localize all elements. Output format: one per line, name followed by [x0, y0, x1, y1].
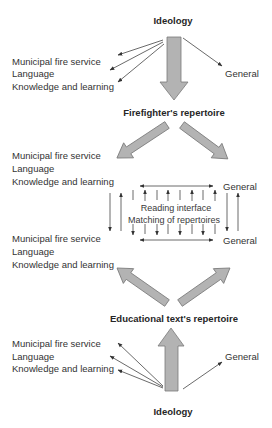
label-knowledge-and-learning: Knowledge and learning	[12, 363, 114, 374]
arrow-to-knowledge-icon	[118, 44, 164, 82]
label-municipal-fire-service: Municipal fire service	[12, 56, 101, 67]
repertoire-diagram: Ideology Municipal fire service Language…	[0, 0, 272, 428]
section-1-labels: Municipal fire service Language Knowledg…	[12, 56, 259, 92]
educational-repertoire-heading: Educational text's repertoire	[110, 313, 238, 324]
label-municipal-fire-service: Municipal fire service	[12, 233, 101, 244]
bottom-ideology-heading: Ideology	[153, 406, 193, 417]
arrow-to-general-icon	[183, 38, 222, 66]
label-municipal-fire-service: Municipal fire service	[12, 150, 101, 161]
matching-of-repertoires-label: Matching of repertoires	[128, 215, 221, 225]
educational-right-block-arrow	[175, 261, 235, 311]
label-general: General	[223, 235, 257, 246]
label-language: Language	[12, 246, 54, 257]
firefighter-repertoire-heading: Firefighter's repertoire	[123, 107, 225, 118]
arrow-to-municipal-icon	[118, 40, 163, 55]
ideology-down-block-arrow	[160, 37, 188, 100]
reading-interface: Reading interface Matching of repertoire…	[110, 186, 238, 240]
ideology-thin-arrows-top	[110, 38, 222, 82]
label-knowledge-and-learning: Knowledge and learning	[12, 176, 114, 187]
arrow-to-language-icon	[110, 42, 163, 70]
firefighter-left-block-arrow	[112, 117, 172, 165]
label-language: Language	[12, 351, 54, 362]
section-3-labels: Municipal fire service Language Knowledg…	[12, 233, 257, 270]
label-knowledge-and-learning: Knowledge and learning	[12, 259, 114, 270]
section-4-labels: Municipal fire service Language Knowledg…	[12, 338, 259, 374]
label-language: Language	[12, 163, 54, 174]
label-municipal-fire-service: Municipal fire service	[12, 338, 101, 349]
label-general: General	[223, 181, 257, 192]
ideology-up-block-arrow	[158, 328, 184, 391]
reading-interface-label: Reading interface	[141, 203, 212, 213]
arrow-to-general-icon	[183, 362, 222, 389]
top-ideology-heading: Ideology	[153, 15, 193, 26]
educational-left-block-arrow	[112, 261, 172, 311]
label-language: Language	[12, 68, 54, 79]
label-knowledge-and-learning: Knowledge and learning	[12, 81, 114, 92]
label-general: General	[225, 68, 259, 79]
label-general: General	[225, 351, 259, 362]
firefighter-right-block-arrow	[177, 118, 234, 166]
